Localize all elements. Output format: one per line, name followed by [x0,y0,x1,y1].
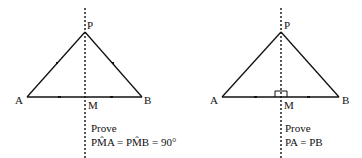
left-tick-am [58,96,61,98]
left-tick-pa [56,62,58,64]
left-label-a: A [15,95,23,106]
left-label-b: B [144,95,151,106]
left-label-p: P [87,20,93,31]
left-tick-mb [110,96,113,98]
right-label-p: P [284,20,290,31]
left-prove-statement: PM̂A = PM̂B = 90° [91,136,176,149]
left-label-m: M [88,100,98,111]
right-prove-statement: PA = PB [285,136,323,149]
right-tick-mb [307,96,310,98]
right-label-b: B [342,95,349,106]
right-tick-am [254,96,257,98]
left-side-pa [27,32,85,97]
right-side-pa [222,32,281,97]
right-label-m: M [284,100,294,111]
right-label-a: A [210,95,218,106]
left-prove-label: Prove [91,122,117,135]
left-tick-pb [112,62,114,64]
right-prove-label: Prove [285,122,311,135]
right-side-pb [281,32,339,97]
left-side-pb [85,32,142,97]
